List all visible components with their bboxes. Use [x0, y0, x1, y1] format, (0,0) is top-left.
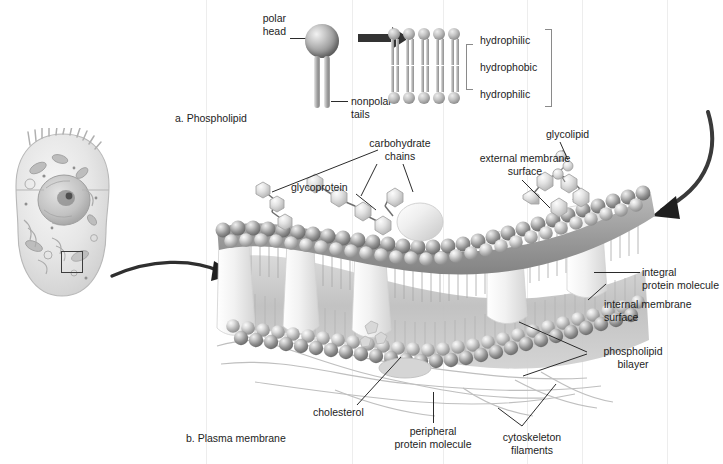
bilayer-head: [448, 92, 460, 104]
bilayer-tail: [406, 39, 409, 65]
phospholipid-head: [305, 24, 339, 58]
leader-nonpolar-tails: [331, 101, 348, 102]
label-phospholipid-bilayer: phospholipid bilayer: [590, 345, 676, 370]
leader-phospholipid-bilayer: [517, 320, 591, 380]
bilayer-tail: [436, 39, 439, 65]
bilayer-tail: [421, 39, 424, 65]
label-integral-protein-molecule: integral protein molecule: [642, 266, 722, 291]
caption-panel-b: b. Plasma membrane: [186, 432, 286, 444]
bilayer-tail: [421, 66, 424, 92]
bilayer-tail: [456, 39, 459, 65]
label-hydrophilic-bottom: hydrophilic: [480, 88, 530, 101]
bilayer-tail: [441, 66, 444, 92]
leader-integral-protein-molecule: [594, 272, 640, 273]
leader-cholesterol: [355, 355, 403, 407]
bilayer-tail: [436, 66, 439, 92]
integral-protein-molecule: [283, 240, 319, 333]
membrane-detail-box: [61, 251, 83, 273]
label-peripheral-protein-molecule: peripheral protein molecule: [373, 425, 493, 450]
label-hydrophilic-top: hydrophilic: [480, 34, 530, 47]
leader-glycoprotein: [270, 148, 380, 218]
bilayer-tail: [406, 66, 409, 92]
bilayer-tail: [391, 39, 394, 65]
phospholipid-tail-left: [314, 56, 320, 108]
animal-cell-illustration: [8, 128, 118, 303]
bilayer-head: [403, 92, 415, 104]
bilayer-tail: [391, 66, 394, 92]
bilayer-tail: [411, 66, 414, 92]
bracket-hydrophobic-core: [466, 44, 473, 90]
phospholipid-tail-right: [324, 56, 330, 108]
bilayer-tail: [411, 39, 414, 65]
bilayer-head: [388, 92, 400, 104]
leader-internal-membrane-surface: [586, 282, 610, 302]
bilayer-tail: [451, 66, 454, 92]
bilayer-tail: [441, 39, 444, 65]
bilayer-tail: [426, 39, 429, 65]
bilayer-tail: [451, 39, 454, 65]
label-glycolipid: glycolipid: [546, 128, 589, 141]
label-polar-head: polar head: [236, 12, 286, 37]
leader-cytoskeleton-filaments: [496, 382, 562, 430]
leader-external-membrane-surface: [520, 178, 554, 212]
label-internal-membrane-surface: internal membrane surface: [604, 298, 723, 323]
figure-canvas: polar head nonpolar tails: [0, 0, 723, 464]
bilayer-tail: [456, 66, 459, 92]
label-cholesterol: cholesterol: [313, 406, 364, 419]
leader-peripheral-protein-molecule: [433, 392, 434, 423]
bilayer-tail: [426, 66, 429, 92]
bilayer-head: [418, 92, 430, 104]
glycoprotein-molecule: [397, 203, 443, 241]
bracket-whole-bilayer: [545, 29, 552, 107]
bilayer-tail: [396, 39, 399, 65]
bilayer-tail: [396, 66, 399, 92]
label-hydrophobic: hydrophobic: [480, 61, 537, 74]
bilayer-head: [433, 92, 445, 104]
caption-panel-a: a. Phospholipid: [175, 112, 247, 124]
label-cytoskeleton-filaments: cytoskeleton filaments: [482, 431, 582, 456]
background-band: [206, 0, 207, 464]
transition-arrow-icon: [358, 25, 410, 51]
label-external-membrane-surface: external membrane surface: [466, 152, 584, 177]
